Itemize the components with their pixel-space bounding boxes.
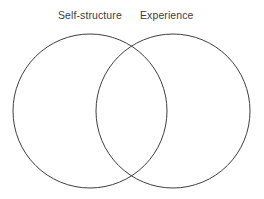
self-structure-label: Self-structure <box>58 9 122 21</box>
self-structure-circle <box>13 34 167 188</box>
experience-label: Experience <box>140 9 194 21</box>
experience-circle <box>96 34 250 188</box>
venn-diagram-figure: Self-structure Experience <box>0 0 264 199</box>
venn-diagram-canvas <box>0 0 264 199</box>
